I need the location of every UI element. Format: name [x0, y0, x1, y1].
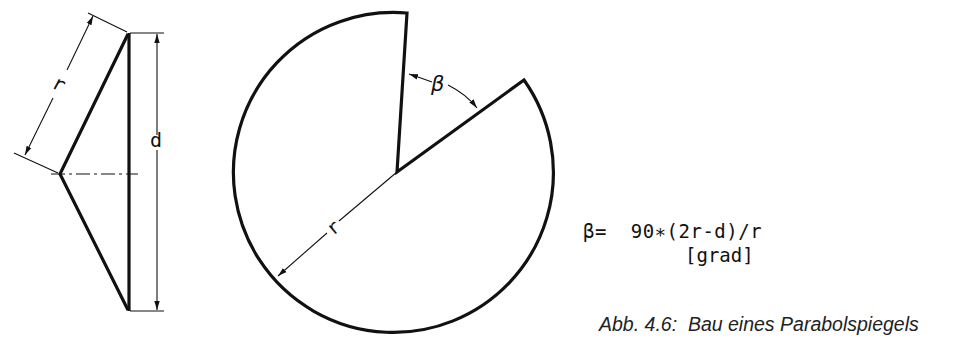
- r-slant-dimension-lower: [25, 98, 53, 155]
- beta-formula-unit: [grad]: [685, 244, 754, 266]
- diagram-canvas: r d r β: [0, 0, 979, 361]
- beta-angle-label: β: [430, 72, 444, 96]
- beta-arc-left: [409, 74, 432, 82]
- figure-caption: Abb. 4.6: Bau eines Parabolspiegels: [599, 313, 919, 336]
- cone-slant-label: r: [48, 70, 70, 97]
- cone-side-view: [14, 13, 164, 311]
- r-extension-top: [88, 13, 127, 32]
- radius-dimension-line-upper: [339, 172, 397, 221]
- cone-diameter-label: d: [150, 128, 162, 152]
- r-slant-dimension-upper: [67, 16, 93, 70]
- r-extension-bottom: [14, 153, 58, 173]
- beta-formula: β= 90∗(2r-d)/r: [583, 220, 762, 242]
- beta-arc-right: [448, 85, 477, 108]
- pattern-outline: [233, 12, 553, 332]
- radius-dimension-line-lower: [278, 233, 327, 276]
- flat-pattern: [233, 12, 553, 332]
